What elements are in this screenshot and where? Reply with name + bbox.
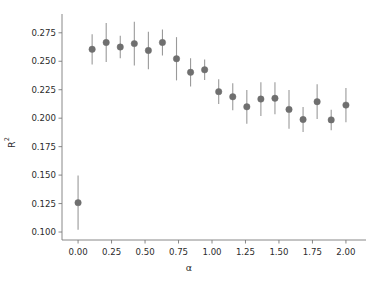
data-point-marker (159, 39, 165, 45)
y-tick-label: 0.225 (31, 85, 56, 95)
data-point-marker (272, 95, 278, 101)
data-point-marker (89, 46, 95, 52)
data-point-marker (187, 69, 193, 75)
data-point-marker (328, 117, 334, 123)
data-point-marker (103, 39, 109, 45)
data-point-marker (300, 116, 306, 122)
x-tick-label: 1.75 (303, 247, 322, 257)
y-tick-label: 0.125 (31, 199, 56, 209)
chart-figure: R2 α 0.1000.1250.1500.1750.2000.2250.250… (0, 0, 378, 285)
data-point-marker (75, 199, 81, 205)
y-tick-label: 0.100 (31, 227, 56, 237)
plot-area (0, 0, 378, 285)
y-tick-label: 0.275 (31, 28, 56, 38)
x-tick-label: 1.00 (202, 247, 221, 257)
x-tick-label: 0.75 (169, 247, 188, 257)
data-point-marker (173, 56, 179, 62)
data-point-marker (201, 67, 207, 73)
x-tick-label: 2.00 (336, 247, 355, 257)
y-tick-label: 0.150 (31, 170, 56, 180)
data-point-marker (343, 102, 349, 108)
scatter-plot-svg (0, 0, 378, 285)
data-point-marker (258, 96, 264, 102)
x-tick-label: 1.25 (236, 247, 255, 257)
data-point-marker (145, 47, 151, 53)
y-tick-label: 0.250 (31, 56, 56, 66)
data-point-marker (131, 40, 137, 46)
data-point-marker (117, 44, 123, 50)
y-tick-label: 0.175 (31, 142, 56, 152)
y-tick-label: 0.200 (31, 113, 56, 123)
data-point-marker (244, 104, 250, 110)
data-point-marker (215, 88, 221, 94)
x-tick-label: 1.50 (269, 247, 288, 257)
x-tick-label: 0.00 (68, 247, 87, 257)
data-point-marker (230, 94, 236, 100)
data-point-marker (286, 106, 292, 112)
x-tick-label: 0.25 (102, 247, 121, 257)
x-tick-label: 0.50 (135, 247, 154, 257)
data-point-marker (314, 98, 320, 104)
